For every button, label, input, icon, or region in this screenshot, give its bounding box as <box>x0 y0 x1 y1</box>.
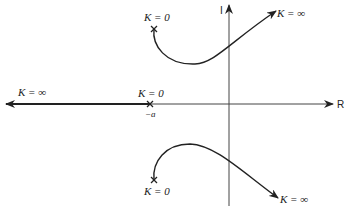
lower-pole-k0-label: K = 0 <box>143 185 170 197</box>
imaginary-axis-label: I <box>220 5 223 16</box>
lower-locus-branch <box>154 144 278 198</box>
real-axis-label: R <box>337 99 344 110</box>
upper-locus-branch <box>154 11 276 64</box>
root-locus-diagram: R I K = 0 −a K = ∞ K = 0 K = ∞ K = 0 K =… <box>0 0 361 211</box>
pole-minus-a-label: −a <box>145 109 156 119</box>
upper-branch-kinf-label: K = ∞ <box>276 7 305 19</box>
real-branch-kinf-label: K = ∞ <box>17 86 46 98</box>
upper-pole-k0-label: K = 0 <box>143 11 170 23</box>
real-pole-k0-label: K = 0 <box>137 87 164 99</box>
lower-branch-kinf-label: K = ∞ <box>279 193 308 205</box>
